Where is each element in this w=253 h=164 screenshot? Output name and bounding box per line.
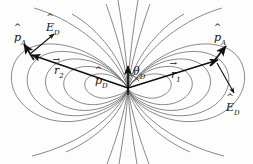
label-E-hat-D-left: ^ E D: [46, 18, 60, 37]
label-p-hat-A-right: ^ p A: [214, 28, 226, 47]
vector-arrow-accent-icon: →: [52, 55, 60, 64]
hat-accent-icon: ^: [46, 13, 54, 22]
field-lines-left-lobes: [11, 44, 128, 122]
E-hat-D-left-glyph: ^ E: [46, 18, 54, 34]
field-lines-polar-lower: [32, 88, 224, 164]
dipole-field-figure: ^ p A ^ E D ^ p A ^ E D → r 2 → r 1: [0, 0, 253, 164]
unit-vector-pA-right: [210, 46, 226, 66]
r-vec-1-glyph: → r: [171, 65, 176, 81]
label-E-hat-D-right: ^ E D: [226, 98, 240, 117]
label-r-vec-2: → r 2: [54, 61, 64, 80]
label-p-hat-D: ^ p D: [95, 71, 108, 90]
label-r-vec-1: → r 1: [171, 65, 181, 84]
hat-accent-icon: ^: [214, 23, 222, 32]
vector-arrow-accent-icon: →: [169, 59, 177, 68]
p-hat-A-right-glyph: ^ p: [214, 28, 221, 44]
p-hat-A-left-glyph: ^ p: [14, 28, 21, 44]
hat-accent-icon: ^: [14, 23, 22, 32]
hat-accent-icon: ^: [95, 66, 103, 75]
label-p-hat-A-left: ^ p A: [14, 28, 26, 47]
label-theta-D: θD: [133, 62, 145, 81]
E-hat-D-right-glyph: ^ E: [226, 98, 234, 114]
r-vec-2-glyph: → r: [54, 61, 59, 77]
hat-accent-icon: ^: [226, 93, 234, 102]
p-hat-D-glyph: ^ p: [95, 71, 102, 87]
